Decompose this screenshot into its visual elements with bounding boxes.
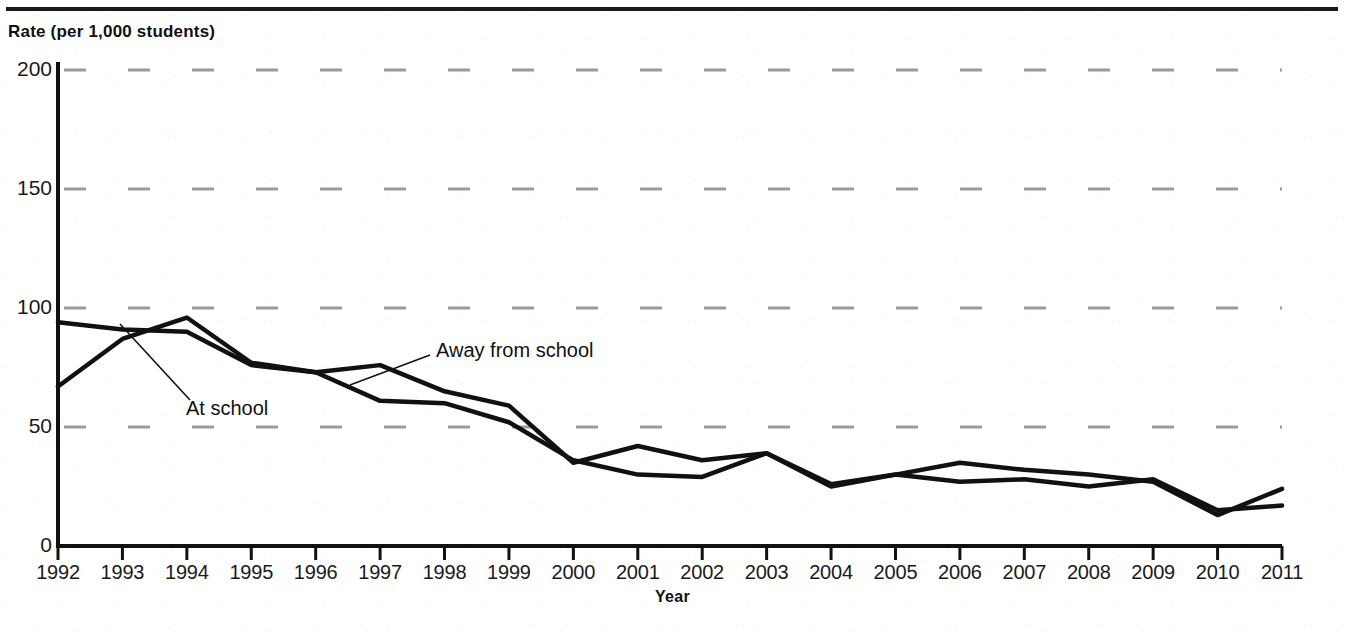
x-tick-label-1994: 1994 xyxy=(155,562,219,582)
x-tick-label-1992: 1992 xyxy=(26,562,90,582)
x-tick-label-1993: 1993 xyxy=(90,562,154,582)
series-label-away-from-school: Away from school xyxy=(436,340,593,360)
x-tick-label-2001: 2001 xyxy=(606,562,670,582)
x-tick-label-1998: 1998 xyxy=(413,562,477,582)
x-axis-title: Year xyxy=(0,588,1345,606)
x-tick-label-1997: 1997 xyxy=(348,562,412,582)
chart-plot-area xyxy=(0,0,1345,640)
x-tick-label-2006: 2006 xyxy=(928,562,992,582)
x-tick-label-2010: 2010 xyxy=(1186,562,1250,582)
x-ticks-group xyxy=(58,546,1282,560)
x-tick-label-2003: 2003 xyxy=(735,562,799,582)
series-label-at-school: At school xyxy=(186,398,268,418)
x-tick-label-1995: 1995 xyxy=(219,562,283,582)
x-tick-label-2004: 2004 xyxy=(799,562,863,582)
x-tick-label-2011: 2011 xyxy=(1250,562,1314,582)
leader-lines-group xyxy=(120,324,430,400)
x-tick-label-1996: 1996 xyxy=(284,562,348,582)
x-tick-label-2008: 2008 xyxy=(1057,562,1121,582)
figure-container: Rate (per 1,000 students) 200 150 100 50… xyxy=(0,0,1345,640)
x-tick-label-2002: 2002 xyxy=(670,562,734,582)
x-tick-label-1999: 1999 xyxy=(477,562,541,582)
x-tick-label-2009: 2009 xyxy=(1121,562,1185,582)
x-tick-label-2000: 2000 xyxy=(541,562,605,582)
x-tick-label-2007: 2007 xyxy=(992,562,1056,582)
x-tick-label-2005: 2005 xyxy=(863,562,927,582)
